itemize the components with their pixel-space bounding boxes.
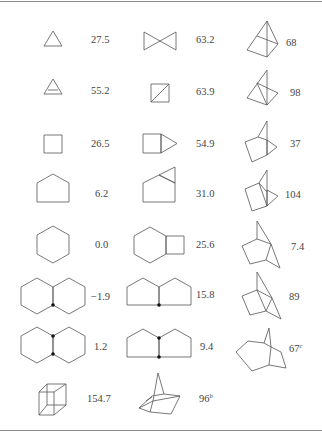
strain-value: 89: [289, 292, 300, 303]
structure-cyclopentane: [37, 174, 69, 202]
strain-value: 68: [286, 38, 297, 49]
strain-value: 25.6: [196, 240, 214, 251]
structures-figure: [0, 0, 322, 437]
structure-tricyclo-expanded: [236, 328, 286, 371]
structure-trans-hydrindane: [127, 278, 191, 307]
structure-tricyclo-fused: [245, 170, 278, 211]
structure-tricyclo-norbornane: [242, 272, 281, 319]
structure-cyclopropene: [44, 79, 62, 94]
structure-bicyclohexane: [143, 167, 175, 202]
structure-cis-hydrindane: [127, 329, 191, 359]
structure-bicyclopentane: [143, 134, 177, 153]
structure-bicyclooctane: [134, 227, 184, 263]
strain-value: 98: [290, 88, 301, 99]
structure-tricyclic-cage: [139, 373, 180, 414]
strain-value: 27.5: [91, 35, 109, 46]
strain-value: 9.4: [200, 342, 213, 353]
structure-bicyclo-propane-fused: [245, 121, 277, 162]
strain-value: 37: [290, 139, 301, 150]
strain-value: 55.2: [91, 86, 109, 97]
strain-value: 63.2: [196, 35, 214, 46]
structure-cubane: [39, 384, 66, 415]
strain-value: 0.0: [95, 240, 108, 251]
strain-value: 7.4: [291, 242, 304, 253]
strain-value: −1.9: [91, 292, 110, 303]
footnote-marker: c: [300, 342, 303, 349]
strain-value: 6.2: [95, 189, 108, 200]
strain-value: 26.5: [91, 139, 109, 150]
strain-value: 63.9: [196, 87, 214, 98]
structure-bicyclobutane: [151, 84, 169, 102]
structure-cyclohexane: [37, 226, 69, 263]
strain-value: 31.0: [196, 189, 214, 200]
structure-spiropentane: [144, 32, 176, 50]
strain-value: 154.7: [87, 394, 111, 405]
strain-value: 96b: [199, 393, 213, 405]
structure-cis-decalin: [21, 327, 85, 363]
strain-value: 54.9: [196, 139, 214, 150]
structure-cyclopropane: [44, 31, 62, 46]
structure-trans-decalin: [21, 278, 85, 314]
footnote-marker: b: [210, 392, 213, 399]
bottom-rule: [0, 430, 322, 431]
structure-tetrahedrane-bridged: [247, 70, 278, 105]
structure-norbornane: [242, 221, 280, 268]
structure-tetrahedrane-fused: [247, 21, 278, 57]
strain-value: 104: [285, 190, 301, 201]
strain-value: 15.8: [196, 290, 214, 301]
strain-value: 1.2: [94, 342, 107, 353]
strain-value: 67c: [289, 343, 302, 355]
structure-cyclobutane: [44, 135, 62, 153]
